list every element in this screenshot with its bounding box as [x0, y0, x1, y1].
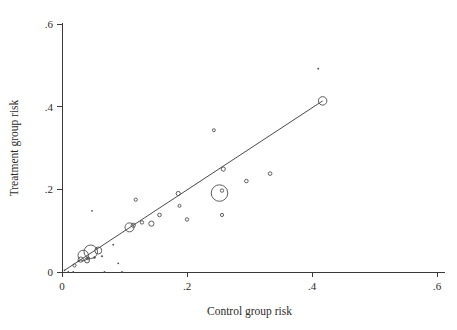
x-axis: 0.2.4.6	[59, 272, 445, 292]
data-point	[91, 210, 93, 212]
scatter-chart: 0.2.4.6 0.2.4.6 Control group risk Treat…	[0, 0, 457, 330]
data-point	[134, 198, 137, 201]
y-tick-label: .6	[45, 18, 54, 30]
x-tick-label: .2	[183, 280, 191, 292]
data-point	[317, 68, 319, 70]
data-point	[117, 262, 119, 264]
data-point	[64, 269, 66, 271]
data-point	[221, 167, 225, 171]
data-point	[149, 221, 154, 226]
y-tick-group: 0.2.4.6	[45, 18, 62, 278]
data-point	[101, 255, 103, 257]
y-axis-title: Treatment group risk	[8, 99, 21, 196]
y-axis: 0.2.4.6	[45, 18, 62, 278]
data-point	[211, 185, 228, 202]
data-points-group	[64, 68, 327, 273]
x-tick-group: 0.2.4.6	[59, 272, 441, 292]
data-point	[268, 172, 272, 176]
data-point	[67, 271, 69, 273]
plot-canvas: 0.2.4.6 0.2.4.6 Control group risk Treat…	[0, 0, 457, 330]
data-point	[93, 256, 95, 258]
data-point	[212, 129, 215, 132]
data-point	[158, 213, 162, 217]
data-point	[121, 271, 123, 273]
data-point	[104, 271, 106, 273]
x-axis-title: Control group risk	[207, 305, 292, 318]
data-point	[140, 221, 143, 224]
data-point	[112, 244, 114, 246]
data-point	[176, 191, 180, 195]
y-tick-label: .2	[45, 183, 53, 195]
x-tick-label: 0	[59, 280, 65, 292]
data-point	[220, 213, 223, 216]
y-tick-label: .4	[45, 101, 54, 113]
data-point	[84, 245, 98, 259]
data-point	[245, 179, 249, 183]
regression-line	[65, 101, 323, 270]
data-point	[72, 271, 74, 273]
data-point	[185, 218, 188, 221]
data-point	[178, 204, 181, 207]
y-tick-label: 0	[48, 266, 54, 278]
x-tick-label: .6	[433, 280, 442, 292]
x-tick-label: .4	[308, 280, 317, 292]
data-point	[220, 189, 223, 192]
